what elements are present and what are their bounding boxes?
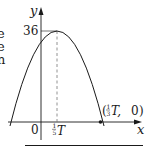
root-label-suffix: T, bbox=[111, 104, 121, 118]
parabola-diagram: e e n y x 36 0 1 5 T ( 1 3 T, 0 ) bbox=[0, 0, 152, 150]
max-value-label: 36 bbox=[23, 24, 38, 38]
root-fraction-numerator: 1 bbox=[107, 103, 111, 110]
y-axis-arrow-icon bbox=[39, 7, 44, 15]
fraction-suffix: T bbox=[57, 124, 66, 138]
root-label-y: 0 bbox=[131, 104, 139, 118]
origin-label: 0 bbox=[31, 123, 39, 137]
parabola-curve bbox=[10, 31, 104, 126]
root-fraction-denominator: 3 bbox=[107, 110, 111, 117]
fraction-numerator: 1 bbox=[53, 122, 57, 129]
root-point-label: ( 1 3 T, 0 ) bbox=[102, 103, 144, 119]
fraction-denominator: 5 bbox=[53, 129, 57, 136]
vertex-x-tick-label: 1 5 T bbox=[52, 122, 66, 138]
y-axis-label: y bbox=[29, 3, 38, 18]
root-point bbox=[99, 120, 103, 124]
clipped-text-line-3: n bbox=[0, 52, 6, 67]
x-axis-label: x bbox=[137, 122, 145, 137]
root-label-close: ) bbox=[139, 104, 144, 118]
